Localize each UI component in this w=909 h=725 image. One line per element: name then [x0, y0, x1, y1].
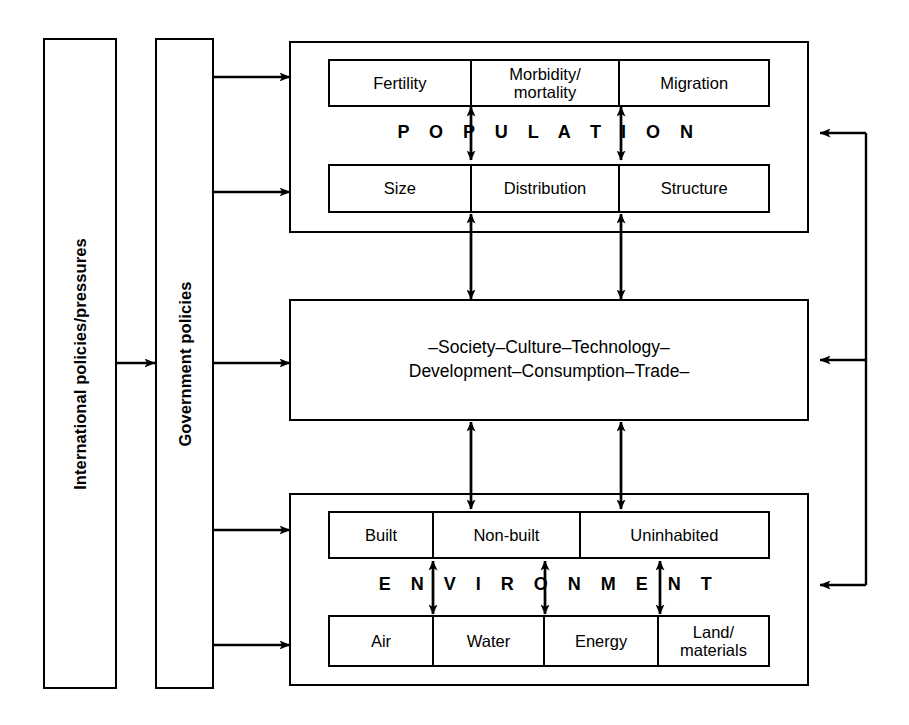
society-block-line-2: Development–Consumption–Trade– [409, 360, 690, 384]
column-international-policies-label: International policies/pressures [71, 238, 90, 490]
society-block-line-1: –Society–Culture–Technology– [409, 336, 690, 360]
population-cell-size-label: Size [384, 179, 416, 197]
population-band-label: P O P U L A T I O N [289, 122, 809, 143]
environment-cell-energy-label: Energy [575, 632, 627, 650]
environment-bottom-row[interactable]: Air Water Energy Land/ materials [328, 615, 770, 667]
population-cell-fertility-label: Fertility [373, 74, 426, 92]
population-cell-morbidity-mortality-label: Morbidity/ mortality [509, 65, 581, 102]
environment-cell-water-label: Water [467, 632, 510, 650]
society-block-text: –Society–Culture–Technology– Development… [409, 336, 690, 383]
environment-cell-built-label: Built [365, 526, 397, 544]
population-cell-fertility[interactable]: Fertility [330, 61, 472, 105]
population-top-row[interactable]: Fertility Morbidity/ mortality Migration [328, 59, 770, 107]
society-block[interactable]: –Society–Culture–Technology– Development… [289, 299, 809, 421]
environment-cell-built[interactable]: Built [330, 513, 434, 557]
environment-cell-land-materials[interactable]: Land/ materials [659, 617, 768, 665]
population-cell-distribution-label: Distribution [504, 179, 587, 197]
environment-cell-air-label: Air [371, 632, 391, 650]
population-cell-morbidity-mortality[interactable]: Morbidity/ mortality [472, 61, 621, 105]
population-cell-size[interactable]: Size [330, 166, 472, 211]
environment-cell-energy[interactable]: Energy [545, 617, 659, 665]
diagram-canvas: International policies/pressures Governm… [0, 0, 909, 725]
environment-cell-non-built[interactable]: Non-built [434, 513, 581, 557]
population-cell-structure-label: Structure [661, 179, 728, 197]
population-cell-migration[interactable]: Migration [620, 61, 768, 105]
population-cell-migration-label: Migration [660, 74, 728, 92]
environment-cell-land-materials-label: Land/ materials [680, 623, 747, 660]
environment-band-label: E N V I R O N M E N T [289, 574, 809, 595]
column-international-policies[interactable]: International policies/pressures [43, 38, 117, 689]
environment-cell-uninhabited-label: Uninhabited [630, 526, 718, 544]
population-cell-distribution[interactable]: Distribution [472, 166, 621, 211]
environment-cell-uninhabited[interactable]: Uninhabited [581, 513, 768, 557]
environment-cell-water[interactable]: Water [434, 617, 545, 665]
column-government-policies[interactable]: Government policies [155, 38, 214, 689]
environment-cell-air[interactable]: Air [330, 617, 434, 665]
column-government-policies-label: Government policies [175, 281, 194, 446]
environment-cell-non-built-label: Non-built [473, 526, 539, 544]
population-cell-structure[interactable]: Structure [620, 166, 768, 211]
environment-top-row[interactable]: Built Non-built Uninhabited [328, 511, 770, 559]
population-bottom-row[interactable]: Size Distribution Structure [328, 164, 770, 213]
